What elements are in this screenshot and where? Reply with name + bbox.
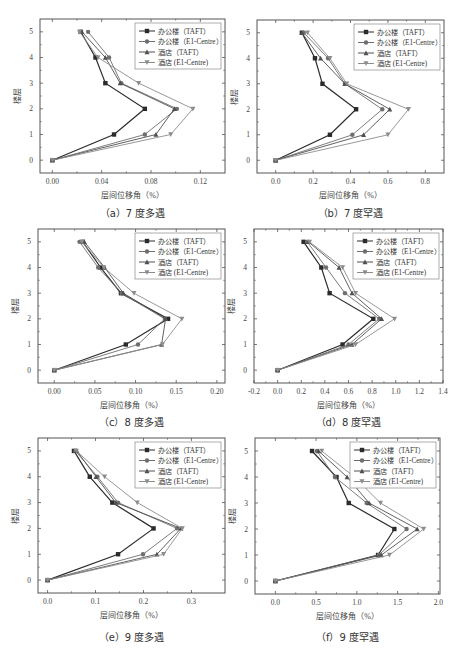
x-tick-label: 1.5 bbox=[393, 598, 403, 607]
square-marker-icon bbox=[103, 81, 107, 85]
chart-panel-e: 0.00.10.20.3012345层间位移角（%）楼层办公楼（TAFT）办公楼… bbox=[10, 438, 225, 620]
legend-entry: 酒店（TAFT） bbox=[373, 467, 418, 476]
y-tick-label: 1 bbox=[29, 130, 33, 139]
x-tick-label: 1.4 bbox=[438, 387, 448, 396]
legend-entry: 办公楼（E1-Centre） bbox=[376, 247, 441, 256]
circle-marker-icon bbox=[404, 527, 408, 531]
square-marker-icon bbox=[320, 82, 324, 86]
legend-entry: 酒店 (E1-Centre) bbox=[158, 58, 209, 67]
x-axis-label: 层间位移角（%） bbox=[100, 610, 163, 620]
x-tick-label: 1.0 bbox=[391, 387, 401, 396]
legend-entry: 酒店 (E1-Centre) bbox=[158, 477, 209, 486]
y-tick-label: 4 bbox=[27, 472, 31, 481]
panel-caption-e: （e）9 度多遇 bbox=[38, 629, 225, 644]
circle-marker-icon bbox=[86, 30, 90, 34]
y-tick-label: 2 bbox=[243, 314, 247, 323]
legend: 办公楼（TAFT）办公楼（E1-Centre）酒店（TAFT）酒店 (E1-Ce… bbox=[135, 233, 223, 279]
legend-entry: 酒店 (E1-Centre) bbox=[376, 268, 427, 277]
y-tick-label: 2 bbox=[244, 525, 248, 534]
charts-canvas: 0.000.040.080.12012345层间位移角（%）楼层办公楼（TAFT… bbox=[0, 0, 459, 654]
y-tick-label: 0 bbox=[243, 366, 247, 375]
x-tick-label: 0.8 bbox=[367, 387, 377, 396]
y-tick-label: 1 bbox=[243, 340, 247, 349]
square-marker-icon bbox=[313, 56, 317, 60]
x-axis-label: 层间位移角（%） bbox=[319, 190, 382, 200]
square-marker-icon bbox=[116, 552, 120, 556]
circle-marker-icon bbox=[141, 552, 145, 556]
y-tick-label: 4 bbox=[27, 263, 31, 272]
triangle-down-marker-icon bbox=[378, 501, 383, 506]
square-marker-icon bbox=[327, 291, 331, 295]
square-marker-icon bbox=[145, 448, 149, 452]
y-tick-label: 3 bbox=[29, 79, 33, 88]
y-tick-label: 5 bbox=[29, 27, 33, 36]
x-axis-label: 层间位移角（%） bbox=[317, 400, 380, 410]
x-tick-label: 0.08 bbox=[144, 177, 157, 186]
legend: 办公楼（TAFT）办公楼（E1-Centre）酒店（TAFT）酒店 (E1-Ce… bbox=[353, 233, 441, 279]
x-axis-label: 层间位移角（%） bbox=[316, 611, 379, 621]
square-marker-icon bbox=[151, 526, 155, 530]
legend-entry: 酒店（TAFT） bbox=[377, 49, 422, 58]
square-marker-icon bbox=[363, 239, 367, 243]
x-tick-label: 0.12 bbox=[194, 177, 207, 186]
square-marker-icon bbox=[360, 448, 364, 452]
x-tick-label: 0.2 bbox=[297, 387, 307, 396]
y-tick-label: 5 bbox=[27, 446, 31, 455]
y-tick-label: 0 bbox=[29, 156, 33, 165]
y-tick-label: 3 bbox=[27, 498, 31, 507]
triangle-down-marker-icon bbox=[131, 291, 136, 296]
circle-marker-icon bbox=[333, 475, 337, 479]
y-axis-label: 楼层 bbox=[12, 88, 22, 104]
circle-marker-icon bbox=[145, 458, 149, 462]
square-marker-icon bbox=[145, 239, 149, 243]
x-tick-label: 0.6 bbox=[344, 387, 354, 396]
circle-marker-icon bbox=[324, 265, 328, 269]
y-tick-label: 2 bbox=[27, 524, 31, 533]
square-marker-icon bbox=[124, 342, 128, 346]
y-tick-label: 5 bbox=[243, 237, 247, 246]
square-marker-icon bbox=[310, 449, 314, 453]
y-tick-label: 1 bbox=[27, 550, 31, 559]
circle-marker-icon bbox=[136, 342, 140, 346]
y-axis-label: 楼层 bbox=[10, 298, 20, 314]
chart-panel-b: 0.00.20.40.60.8012345层间位移角（%）楼层办公楼（TAFT）… bbox=[229, 20, 444, 200]
x-tick-label: 0.8 bbox=[421, 177, 431, 186]
y-tick-label: 3 bbox=[246, 79, 250, 88]
legend-entry: 酒店（TAFT） bbox=[158, 467, 203, 476]
x-axis-label: 层间位移角（%） bbox=[101, 190, 164, 200]
x-tick-label: 0.0 bbox=[271, 177, 281, 186]
y-tick-label: 4 bbox=[243, 263, 247, 272]
legend: 办公楼（TAFT）办公楼（E1-Centre）酒店（TAFT）酒店 (E1-Ce… bbox=[350, 442, 438, 488]
triangle-up-marker-icon bbox=[387, 107, 392, 112]
y-axis-label: 楼层 bbox=[226, 298, 236, 314]
x-tick-label: 0.6 bbox=[383, 177, 393, 186]
square-marker-icon bbox=[143, 107, 147, 111]
y-tick-label: 4 bbox=[29, 53, 33, 62]
circle-marker-icon bbox=[380, 107, 384, 111]
legend-entry: 酒店（TAFT） bbox=[158, 48, 203, 57]
x-tick-label: 2.0 bbox=[434, 598, 444, 607]
legend-entry: 酒店 (E1-Centre) bbox=[373, 477, 424, 486]
x-tick-label: 0.2 bbox=[308, 177, 318, 186]
x-tick-label: 0.00 bbox=[46, 177, 59, 186]
square-marker-icon bbox=[347, 501, 351, 505]
legend-entry: 办公楼（E1-Centre） bbox=[158, 37, 223, 46]
circle-marker-icon bbox=[145, 249, 149, 253]
x-tick-label: 0.1 bbox=[91, 597, 101, 606]
y-axis-label: 楼层 bbox=[10, 508, 20, 524]
circle-marker-icon bbox=[360, 458, 364, 462]
square-marker-icon bbox=[328, 133, 332, 137]
y-tick-label: 3 bbox=[244, 499, 248, 508]
x-tick-label: 0.00 bbox=[48, 387, 61, 396]
circle-marker-icon bbox=[107, 55, 111, 59]
y-tick-label: 3 bbox=[243, 289, 247, 298]
triangle-down-marker-icon bbox=[135, 500, 140, 505]
square-marker-icon bbox=[371, 317, 375, 321]
chart-panel-f: 0.00.51.01.52.0012345层间位移角（%）楼层办公楼（TAFT）… bbox=[227, 438, 443, 621]
x-tick-label: 0.3 bbox=[187, 597, 197, 606]
y-tick-label: 5 bbox=[246, 28, 250, 37]
legend-entry: 办公楼（E1-Centre） bbox=[158, 247, 223, 256]
square-marker-icon bbox=[88, 475, 92, 479]
x-tick-label: 0.05 bbox=[88, 387, 101, 396]
x-tick-label: 0.15 bbox=[170, 387, 183, 396]
